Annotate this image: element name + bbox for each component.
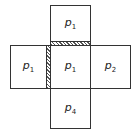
cell-left-label: p1 [23,59,34,74]
cell-bottom: p4 [50,88,91,129]
cell-top: p1 [50,5,91,42]
hatched-boundary-top [50,41,91,46]
cell-right: p2 [90,45,131,89]
cell-center-label: p1 [65,59,76,74]
cell-bottom-label: p4 [65,101,76,116]
cell-top-label: p1 [65,16,76,31]
cell-right-label: p2 [105,59,116,74]
cell-center: p1 [50,45,91,89]
hatched-boundary-left [46,45,51,89]
cell-left: p1 [10,45,47,89]
